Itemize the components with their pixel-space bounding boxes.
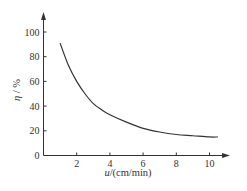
y-tick-label: 40 <box>30 101 40 112</box>
x-axis-label: u/(cm/min) <box>104 167 152 179</box>
y-tick-label: 80 <box>30 51 40 62</box>
y-axis-label: η / % <box>11 79 22 101</box>
y-axis-arrow-icon <box>41 12 46 20</box>
x-tick-label: 2 <box>74 158 79 169</box>
chart-canvas: 020406080100246810 u/(cm/min) η / % <box>0 0 247 191</box>
y-tick-label: 20 <box>30 125 40 136</box>
data-line-eta <box>60 43 218 137</box>
y-tick-label: 100 <box>25 27 40 38</box>
y-tick-label: 0 <box>35 150 40 161</box>
ticks <box>44 32 210 156</box>
x-tick-label: 10 <box>205 158 215 169</box>
x-tick-label: 8 <box>174 158 179 169</box>
y-tick-label: 60 <box>30 76 40 87</box>
x-axis-unit: /(cm/min) <box>110 167 152 179</box>
y-axis-unit: / % <box>11 79 22 96</box>
tick-labels: 020406080100246810 <box>25 27 215 169</box>
x-axis-arrow-icon <box>222 153 230 158</box>
